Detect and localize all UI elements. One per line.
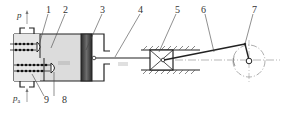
crank: [233, 40, 265, 82]
crank-arm: [245, 44, 249, 60]
label-2: 2: [63, 4, 68, 15]
label-3: 3: [100, 4, 105, 15]
crosshead: [150, 50, 173, 70]
suction-port: [20, 81, 34, 87]
piston: [81, 34, 92, 81]
label-7: 7: [252, 4, 257, 15]
label-1: 1: [46, 4, 51, 15]
valve-head: [14, 34, 40, 81]
cylinder: [10, 28, 92, 87]
label-9: 9: [44, 94, 49, 105]
compressor-diagram: p pa 1 2 3 4 5 6 7 8 9: [0, 0, 283, 120]
label-8: 8: [62, 94, 67, 105]
flow-arrow-rod: [118, 63, 128, 65]
pressure-in-label: pa: [12, 93, 21, 104]
pressure-out-label: p: [16, 10, 22, 20]
label-6: 6: [201, 4, 206, 15]
crankshaft: [246, 58, 252, 64]
piston-pin: [92, 56, 96, 60]
compression-chamber: [38, 34, 83, 81]
label-4: 4: [138, 4, 143, 15]
label-5: 5: [175, 4, 180, 15]
discharge-port: [20, 28, 34, 34]
